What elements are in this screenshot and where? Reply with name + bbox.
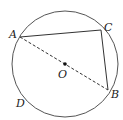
label-b: B <box>110 88 119 101</box>
circle-diagram: A C B O D <box>0 0 123 120</box>
label-c: C <box>104 21 113 34</box>
chord-cb <box>101 30 108 90</box>
label-d: D <box>15 97 25 110</box>
label-o: O <box>58 68 67 81</box>
label-a: A <box>8 28 17 41</box>
chord-ac <box>20 30 101 37</box>
center-point-o <box>63 62 67 66</box>
